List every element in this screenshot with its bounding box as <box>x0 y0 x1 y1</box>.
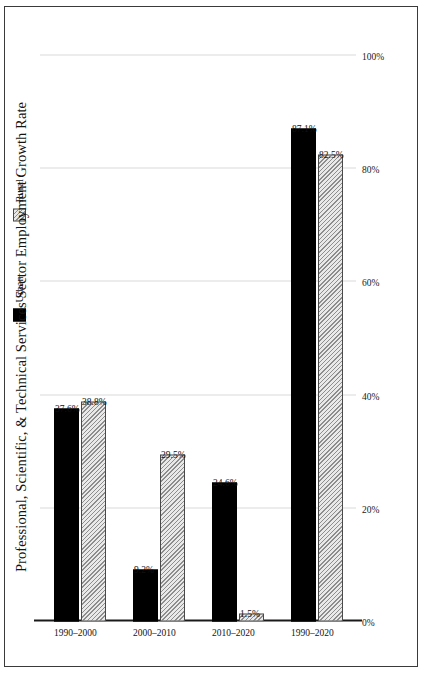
bar-value-label: 9.2% <box>134 564 154 574</box>
bar-value-label: 37.6% <box>55 403 80 413</box>
bar-rural-0 <box>81 401 106 621</box>
bar-urban-2 <box>212 482 237 621</box>
category-label: 1990–2000 <box>54 627 97 637</box>
figure-frame: UrbanRural Professional, Scientific, & T… <box>4 6 418 667</box>
tick-label-text: 0% <box>362 617 375 627</box>
plot-area: 37.6%38.8%9.2%29.5%24.6%1.5%87.1%82.5% 1… <box>40 55 356 621</box>
gridline <box>40 54 356 55</box>
value-axis-ticks: 0%20%40%60%80%100% <box>360 55 416 621</box>
bar-rural-1 <box>160 454 185 621</box>
bar-value-label: 24.6% <box>213 477 238 487</box>
bar-value-label: 38.8% <box>82 396 107 406</box>
chart-title: Professional, Scientific, & Technical Se… <box>4 6 38 667</box>
bar-value-label: 1.5% <box>240 608 260 618</box>
bar-value-label: 87.1% <box>292 123 317 133</box>
tick-label-text: 100% <box>362 51 384 61</box>
tick-label-text: 40% <box>362 391 379 401</box>
tick-label-text: 80% <box>362 164 379 174</box>
category-label: 2010–2020 <box>212 627 255 637</box>
bar-value-label: 29.5% <box>161 449 186 459</box>
bar-urban-0 <box>54 408 79 621</box>
rotated-chart-stage: UrbanRural Professional, Scientific, & T… <box>4 6 418 667</box>
category-label: 1990–2020 <box>291 627 334 637</box>
bar-urban-3 <box>291 128 316 621</box>
tick-label-text: 60% <box>362 277 379 287</box>
category-label: 2000–2010 <box>133 627 176 637</box>
tick-label-text: 20% <box>362 504 379 514</box>
bar-urban-1 <box>133 569 158 621</box>
bar-rural-3 <box>318 154 343 621</box>
bar-value-label: 82.5% <box>319 149 344 159</box>
